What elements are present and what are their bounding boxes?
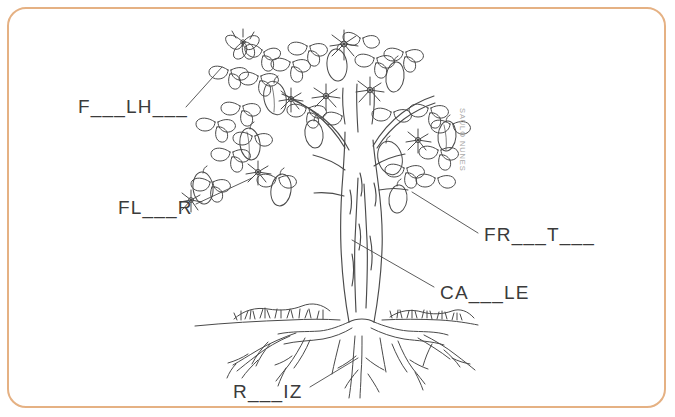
tree-trunk	[341, 132, 383, 322]
label-caule[interactable]: CA___LE	[440, 283, 530, 302]
tree-illustration	[0, 0, 675, 417]
label-fruto[interactable]: FR___T___	[484, 225, 595, 244]
leader-line-folha	[186, 67, 222, 107]
flower-blossom	[356, 77, 384, 105]
label-raiz[interactable]: R___IZ	[233, 382, 303, 401]
ground-line	[195, 304, 478, 326]
flower-blossom	[312, 84, 340, 110]
leader-line-fruto	[412, 192, 478, 233]
worksheet-page: F___LH___ FL___R FR___T___ CA___LE R___I…	[0, 0, 675, 417]
flower-blossom	[246, 161, 271, 185]
flower-blossom	[279, 88, 303, 112]
leader-line-flor	[196, 178, 252, 204]
artist-watermark: SAULO NUNES	[458, 108, 467, 178]
leader-line-caule	[352, 240, 434, 287]
label-folha[interactable]: F___LH___	[78, 97, 188, 116]
flower-blossom	[406, 129, 431, 153]
fruits	[191, 43, 457, 214]
label-flor[interactable]: FL___R	[118, 198, 193, 217]
